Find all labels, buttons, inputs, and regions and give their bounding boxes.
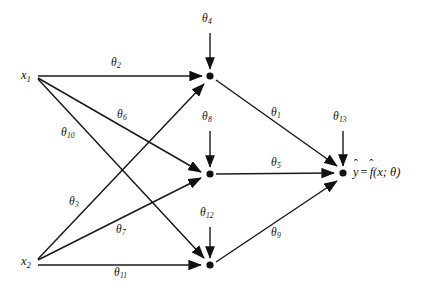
equals-sign: =: [359, 165, 370, 179]
node-hidden-2: [206, 170, 213, 177]
node-output: [339, 169, 346, 176]
edge-weight-label-theta2: θ2: [111, 57, 120, 69]
neural-network-diagram: x1 x2 θ2 θ6 θ10 θ3 θ7 θ11 θ1 θ5 θ9 θ4 θ8…: [0, 0, 433, 295]
edge-weight-label-theta6: θ6: [117, 109, 126, 121]
edge-h3-out: [216, 181, 337, 262]
bias-label-theta8: θ8: [202, 111, 211, 123]
edge-h2-out: [216, 173, 334, 174]
node-hidden-3: [206, 261, 213, 268]
bias-label-theta12: θ12: [200, 207, 213, 219]
edge-weight-label-theta1: θ1: [271, 107, 280, 119]
input-label-x1: x1: [21, 69, 31, 82]
edge-h1-out: [216, 80, 337, 166]
edge-weight-label-theta5: θ5: [271, 157, 280, 169]
edge-weight-label-theta7: θ7: [116, 224, 125, 236]
output-expression: ̂y=̂f(x; θ): [353, 166, 400, 179]
input-label-x2: x2: [21, 255, 31, 268]
edge-weight-label-theta10: θ10: [61, 127, 74, 139]
output-arguments: (x; θ): [373, 165, 400, 179]
edge-x2-h2: [38, 178, 201, 260]
bias-label-theta13: θ13: [333, 111, 346, 123]
y-hat-symbol: ̂y: [353, 166, 359, 179]
edge-weight-label-theta9: θ9: [271, 227, 280, 239]
node-hidden-1: [206, 72, 213, 79]
edge-weight-label-theta11: θ11: [114, 267, 127, 279]
f-hat-symbol: ̂f: [370, 166, 373, 179]
edge-x1-h2: [38, 78, 201, 172]
edge-weight-label-theta3: θ3: [69, 196, 78, 208]
diagram-canvas: [0, 0, 433, 295]
bias-label-theta4: θ4: [202, 13, 211, 25]
